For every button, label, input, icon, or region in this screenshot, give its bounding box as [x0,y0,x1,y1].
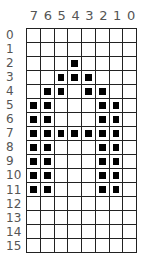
column-label: 3 [83,8,97,24]
pixel-off [123,155,137,169]
pixel-on [27,127,41,141]
pixel-off [96,211,110,225]
pixel-off [123,57,137,71]
pixel-off [123,225,137,239]
pixel-off [41,43,55,57]
pixel-on [41,113,55,127]
pixel-off [68,225,82,239]
pixel-off [123,85,137,99]
column-label: 7 [27,8,41,24]
pixel-on [27,99,41,113]
pixel-on [96,99,110,113]
pixel-off [27,71,41,85]
pixel-off [123,183,137,197]
pixel-off [96,197,110,211]
pixel-off [27,43,41,57]
row-label: 2 [0,56,24,70]
pixel-off [68,99,82,113]
pixel-off [123,113,137,127]
row-label: 11 [0,183,24,197]
row-label: 7 [0,126,24,140]
pixel-on [110,169,124,183]
pixel-on [27,113,41,127]
pixel-off [41,29,55,43]
row-label: 4 [0,84,24,98]
pixel-off [55,57,69,71]
pixel-off [123,169,137,183]
pixel-on [82,71,96,85]
pixel-off [55,183,69,197]
pixel-off [110,211,124,225]
pixel-off [123,239,137,253]
pixel-on [27,141,41,155]
pixel-on [55,127,69,141]
pixel-on [96,127,110,141]
pixel-on [27,169,41,183]
pixel-off [55,113,69,127]
pixel-on [82,127,96,141]
pixel-off [82,155,96,169]
row-label: 3 [0,70,24,84]
row-label: 10 [0,168,24,182]
pixel-on [68,57,82,71]
pixel-off [123,71,137,85]
pixel-off [96,57,110,71]
pixel-off [123,127,137,141]
pixel-on [41,127,55,141]
pixel-off [68,239,82,253]
pixel-off [82,113,96,127]
column-label: 2 [96,8,110,24]
pixel-off [55,169,69,183]
column-bit-labels: 76543210 [27,8,138,24]
pixel-off [55,141,69,155]
pixel-off [82,43,96,57]
pixel-off [123,197,137,211]
pixel-off [123,43,137,57]
pixel-on [82,85,96,99]
pixel-off [55,99,69,113]
pixel-on [110,183,124,197]
row-label: 12 [0,197,24,211]
pixel-on [27,155,41,169]
pixel-on [68,71,82,85]
pixel-on [110,127,124,141]
pixel-off [110,225,124,239]
pixel-on [96,169,110,183]
pixel-off [55,225,69,239]
row-label: 5 [0,98,24,112]
pixel-off [96,71,110,85]
pixel-off [55,29,69,43]
pixel-off [82,211,96,225]
pixel-off [96,29,110,43]
pixel-off [27,211,41,225]
row-label: 14 [0,225,24,239]
pixel-off [82,57,96,71]
pixel-off [82,225,96,239]
pixel-off [82,197,96,211]
pixel-off [82,141,96,155]
pixel-off [96,43,110,57]
row-label: 8 [0,140,24,154]
pixel-on [41,141,55,155]
pixel-off [68,183,82,197]
pixel-off [27,225,41,239]
pixel-off [41,239,55,253]
pixel-off [68,169,82,183]
pixel-off [123,29,137,43]
pixel-off [41,211,55,225]
pixel-on [55,71,69,85]
pixel-off [82,99,96,113]
pixel-off [123,99,137,113]
pixel-off [82,239,96,253]
pixel-off [68,113,82,127]
pixel-off [41,71,55,85]
pixel-off [110,197,124,211]
pixel-on [41,183,55,197]
pixel-off [68,29,82,43]
pixel-off [41,225,55,239]
pixel-on [41,169,55,183]
pixel-off [55,211,69,225]
pixel-on [41,85,55,99]
row-label: 13 [0,211,24,225]
pixel-off [55,239,69,253]
